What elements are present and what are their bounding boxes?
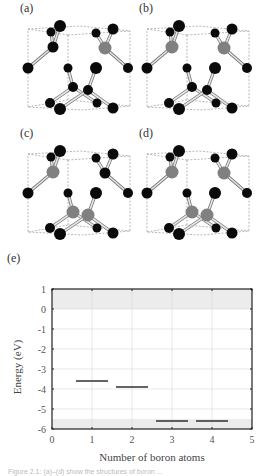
- x-tick-label: 2: [130, 434, 135, 445]
- y-tick-label: 1: [41, 284, 46, 295]
- y-axis-label: Energy (eV): [11, 339, 24, 394]
- x-tick-label: 3: [170, 434, 175, 445]
- x-tick-label: 1: [90, 434, 95, 445]
- y-tick-label: -5: [38, 404, 46, 415]
- y-tick-label: -3: [38, 364, 46, 375]
- x-axis-label: Number of boron atoms: [99, 451, 204, 463]
- y-tick-label: -6: [38, 424, 46, 435]
- energy-level-chart: 01234510-1-2-3-4-5-6Number of boron atom…: [0, 0, 268, 476]
- y-tick-label: -1: [38, 324, 46, 335]
- y-tick-label: 0: [41, 304, 46, 315]
- plot-frame: [52, 289, 252, 429]
- x-tick-label: 5: [250, 434, 255, 445]
- y-tick-label: -2: [38, 344, 46, 355]
- conduction-band-shade: [52, 289, 252, 309]
- x-tick-label: 4: [210, 434, 215, 445]
- y-tick-label: -4: [38, 384, 46, 395]
- x-tick-label: 0: [50, 434, 55, 445]
- figure-caption: Figure 2.1: (a)–(d) show the structures …: [8, 468, 162, 475]
